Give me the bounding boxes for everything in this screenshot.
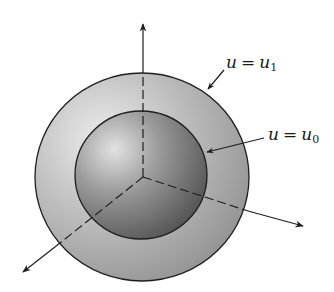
- inner-label-subscript: 0: [312, 133, 319, 146]
- inner-label-lhs: u: [268, 124, 279, 144]
- inner-surface-label: u=u0: [268, 126, 319, 145]
- inner-label-equals: =: [279, 124, 301, 144]
- outer-label-rhs: u: [259, 52, 270, 72]
- inner-label-rhs: u: [301, 124, 312, 144]
- outer-label-equals: =: [237, 52, 259, 72]
- concentric-spheres-diagram: [0, 0, 334, 292]
- outer-label-lhs: u: [226, 52, 237, 72]
- outer-surface-pointer-arrow: [208, 70, 224, 89]
- outer-surface-label: u=u1: [226, 54, 277, 73]
- outer-label-subscript: 1: [270, 61, 277, 74]
- inner-sphere-surface: [75, 111, 207, 239]
